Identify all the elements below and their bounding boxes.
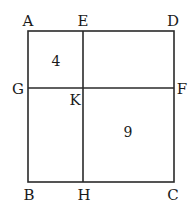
square-diagram: A E D G F K B H C 4 9 (0, 0, 191, 207)
point-label-g: G (12, 80, 24, 98)
point-label-f: F (177, 80, 187, 98)
point-label-c: C (167, 186, 178, 204)
region-area-kfch: 9 (124, 124, 133, 140)
point-label-b: B (23, 186, 34, 204)
point-label-h: H (77, 186, 90, 204)
point-label-a: A (22, 12, 34, 30)
point-label-k: K (69, 91, 81, 109)
point-label-e: E (78, 12, 89, 30)
point-label-d: D (167, 12, 179, 30)
region-area-aekg: 4 (52, 53, 61, 69)
outer-square-ABCD (28, 31, 174, 182)
